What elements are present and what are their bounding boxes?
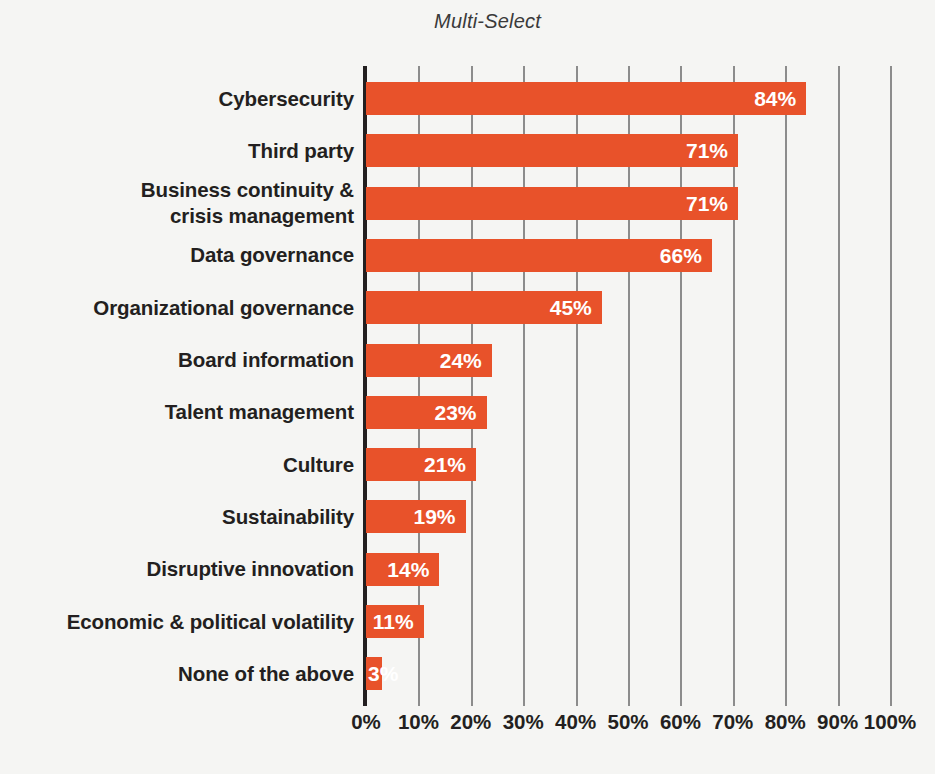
bar-row[interactable]: 3%	[366, 657, 382, 690]
bar-row[interactable]: 14%	[366, 553, 439, 586]
bar-value-label: 23%	[434, 396, 476, 429]
category-label: Business continuity &crisis management	[0, 177, 354, 229]
bar-row[interactable]: 19%	[366, 500, 466, 533]
bar-row[interactable]: 71%	[366, 187, 738, 220]
bar-value-label: 11%	[373, 605, 414, 638]
bar-row[interactable]: 66%	[366, 239, 712, 272]
x-tick-label: 90%	[817, 710, 858, 734]
category-label-line: Talent management	[165, 400, 354, 423]
category-labels: CybersecurityThird partyBusiness continu…	[0, 66, 354, 706]
category-label-line: Economic & political volatility	[67, 610, 354, 633]
category-label-line: Sustainability	[222, 505, 354, 528]
bar-value-label: 24%	[440, 344, 482, 377]
category-label-line: crisis management	[0, 203, 354, 229]
x-tick-label: 10%	[398, 710, 439, 734]
x-tick-label: 20%	[450, 710, 491, 734]
bar-row[interactable]: 45%	[366, 291, 602, 324]
bar-value-label: 3%	[368, 657, 398, 690]
category-label: Board information	[0, 347, 354, 373]
x-tick-label: 40%	[555, 710, 596, 734]
x-tick-label: 60%	[660, 710, 701, 734]
category-label: Disruptive innovation	[0, 556, 354, 582]
category-label: Talent management	[0, 399, 354, 425]
category-label-line: Cybersecurity	[219, 87, 354, 110]
category-label-line: Organizational governance	[93, 296, 354, 319]
bar-value-label: 45%	[550, 291, 592, 324]
category-label: Cybersecurity	[0, 86, 354, 112]
x-axis-tick-labels: 0%10%20%30%40%50%60%70%80%90%100%	[366, 710, 890, 744]
bar-row[interactable]: 71%	[366, 134, 738, 167]
x-tick-label: 70%	[712, 710, 753, 734]
bar-value-label: 66%	[660, 239, 702, 272]
category-label: Third party	[0, 138, 354, 164]
category-label-line: Disruptive innovation	[147, 557, 354, 580]
bar-value-label: 84%	[754, 82, 796, 115]
bar-row[interactable]: 24%	[366, 344, 492, 377]
category-label: Sustainability	[0, 504, 354, 530]
x-tick-label: 100%	[864, 710, 916, 734]
category-label: Organizational governance	[0, 295, 354, 321]
category-label-line: Business continuity &	[0, 177, 354, 203]
bar-row[interactable]: 23%	[366, 396, 487, 429]
bar-row[interactable]: 21%	[366, 448, 476, 481]
category-label-line: Third party	[248, 139, 354, 162]
category-label: Economic & political volatility	[0, 609, 354, 635]
bars-layer: 84%71%71%66%45%24%23%21%19%14%11%3%	[366, 66, 935, 706]
bar-chart: Multi-Select 84%71%71%66%45%24%23%21%19%…	[0, 0, 935, 774]
bar[interactable]	[366, 187, 738, 220]
x-tick-label: 30%	[503, 710, 544, 734]
bar-row[interactable]: 11%	[366, 605, 424, 638]
x-tick-label: 80%	[765, 710, 806, 734]
bar-row[interactable]: 84%	[366, 82, 806, 115]
category-label: None of the above	[0, 661, 354, 687]
bar-value-label: 14%	[387, 553, 429, 586]
bar-value-label: 71%	[686, 187, 728, 220]
bar[interactable]	[366, 134, 738, 167]
category-label: Culture	[0, 452, 354, 478]
bar-value-label: 19%	[414, 500, 456, 533]
category-label-line: None of the above	[178, 662, 354, 685]
category-label-line: Board information	[178, 348, 354, 371]
x-tick-label: 0%	[351, 710, 381, 734]
category-label-line: Data governance	[190, 243, 354, 266]
category-label: Data governance	[0, 242, 354, 268]
bar-value-label: 21%	[424, 448, 466, 481]
chart-title: Multi-Select	[0, 10, 935, 33]
bar-value-label: 71%	[686, 134, 728, 167]
bar[interactable]	[366, 82, 806, 115]
category-label-line: Culture	[283, 453, 354, 476]
x-tick-label: 50%	[607, 710, 648, 734]
